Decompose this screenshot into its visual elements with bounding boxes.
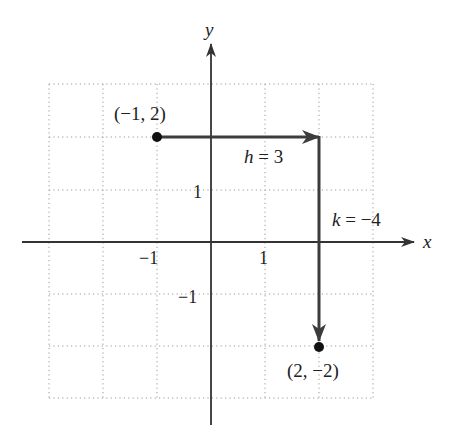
end-point: [314, 342, 324, 352]
start-point-label: (−1, 2): [114, 103, 166, 125]
start-point: [152, 132, 162, 142]
translation-diagram: x y −1 1 1 −1 (−1, 2) (2, −2) h = 3 k = …: [0, 0, 454, 437]
x-axis-label: x: [422, 231, 432, 252]
k-equals: =: [340, 209, 360, 230]
x-tick-1: 1: [259, 248, 268, 268]
x-tick-neg1: −1: [139, 248, 158, 268]
y-axis-label: y: [203, 19, 214, 40]
k-value: −4: [361, 209, 382, 230]
h-value: 3: [274, 146, 284, 167]
h-equals: =: [254, 146, 274, 167]
k-shift-label: k = −4: [332, 209, 381, 230]
h-var: h: [244, 146, 254, 167]
end-point-label: (2, −2): [287, 360, 339, 382]
y-tick-neg1: −1: [178, 287, 197, 307]
y-tick-1: 1: [193, 182, 202, 202]
h-shift-label: h = 3: [244, 146, 283, 167]
